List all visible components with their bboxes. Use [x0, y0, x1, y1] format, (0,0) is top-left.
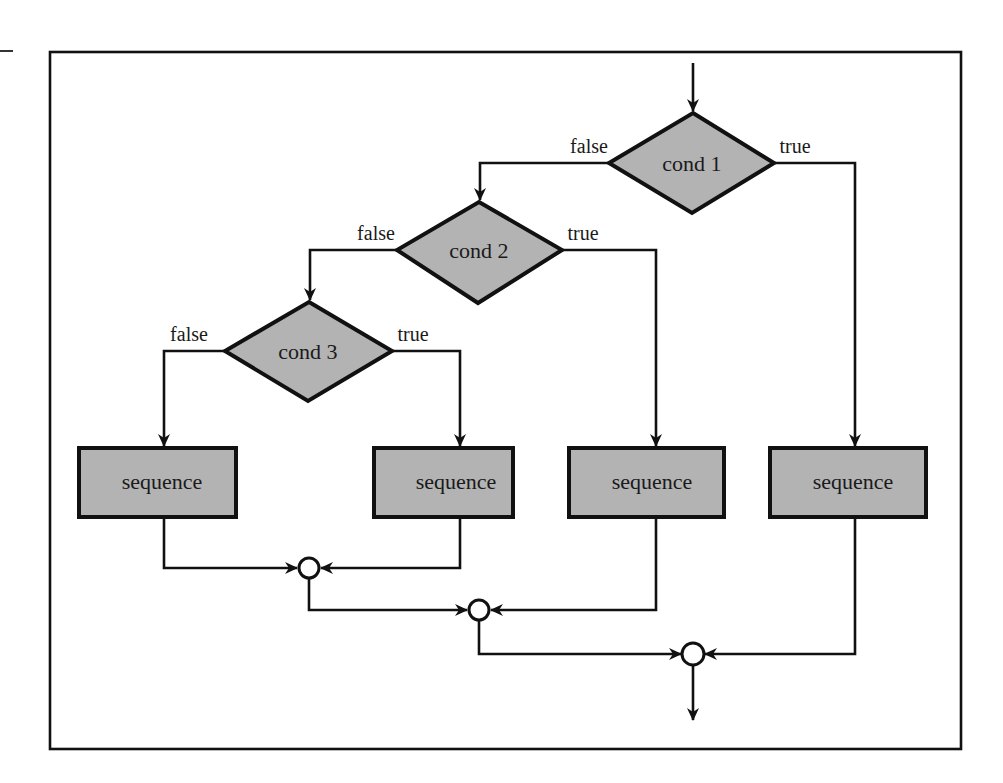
seq3-to-join2-edge [491, 517, 656, 610]
true-label: true [567, 222, 598, 244]
sequence-box-2: sequence [374, 448, 513, 517]
seq1-to-join1-edge [164, 517, 297, 568]
cond3-true-edge [392, 351, 460, 446]
junction-connector-1 [299, 558, 319, 578]
decision-cond1: cond 1 false true [570, 113, 811, 213]
sequence-box-1: sequence [79, 448, 236, 517]
false-label: false [570, 135, 608, 157]
junction-connector-3 [682, 643, 704, 665]
decision-cond2: cond 2 false true [357, 202, 599, 303]
flowchart-diagram: cond 1 false true cond 2 false true cond… [0, 0, 1003, 783]
cond2-true-edge [562, 250, 656, 446]
cond3-false-edge [164, 351, 225, 446]
sequence-label: sequence [416, 469, 497, 494]
join1-to-join2-edge [309, 578, 467, 610]
decision-label: cond 3 [278, 339, 337, 364]
seq4-to-join3-edge [705, 517, 855, 654]
sequence-label: sequence [122, 469, 203, 494]
junction-connector-2 [469, 600, 489, 620]
sequence-label: sequence [813, 469, 894, 494]
true-label: true [779, 135, 810, 157]
false-label: false [357, 222, 395, 244]
false-label: false [170, 323, 208, 345]
diagram-frame [50, 52, 961, 749]
join2-to-join3-edge [479, 620, 681, 654]
decision-label: cond 2 [449, 238, 508, 263]
cond1-false-edge [480, 163, 609, 200]
sequence-box-3: sequence [569, 448, 724, 517]
cond1-true-edge [774, 163, 855, 446]
sequence-label: sequence [612, 469, 693, 494]
seq2-to-join1-edge [321, 517, 460, 568]
sequence-box-4: sequence [770, 448, 926, 517]
cond2-false-edge [310, 250, 397, 300]
decision-label: cond 1 [662, 151, 721, 176]
true-label: true [397, 323, 428, 345]
